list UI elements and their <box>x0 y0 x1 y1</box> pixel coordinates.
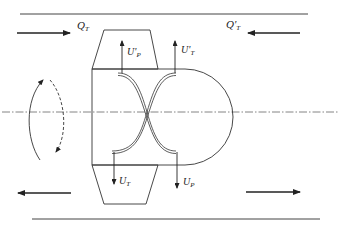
label-q-t: QT <box>77 19 90 33</box>
label-u-p-prime: U'P <box>127 46 141 59</box>
rotation-arc-solid <box>29 80 43 160</box>
label-q-t-prime: Q'T <box>226 18 241 32</box>
label-u-t: UT <box>119 175 131 188</box>
label-u-t-prime: U'T <box>181 44 195 57</box>
vane-flow-diagram: QT Q'T U'P U'T UT UP <box>0 0 341 227</box>
upper-vane-trapezoid <box>92 30 158 69</box>
label-u-p: UP <box>183 176 195 189</box>
rotation-arc-dashed <box>50 80 64 152</box>
crossing-blades <box>112 73 176 154</box>
